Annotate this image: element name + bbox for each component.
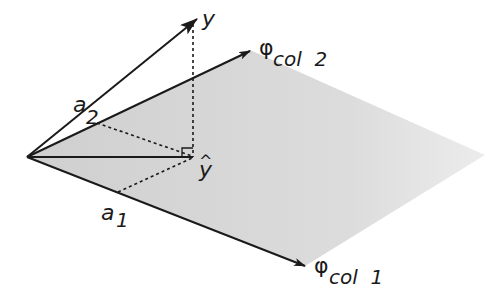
diagram-canvas: y φ col 2 φ col 1 a 2 a 1 ^ y: [0, 0, 497, 307]
projection-diagram: y φ col 2 φ col 1 a 2 a 1 ^ y: [0, 0, 497, 307]
label-phi-col1-sub: col 1: [329, 265, 383, 289]
label-phi-col1-symbol: φ: [314, 253, 329, 278]
label-yhat-base: y: [198, 157, 213, 182]
label-a1-base: a: [101, 200, 114, 225]
label-a2-sub: 2: [86, 105, 99, 129]
label-phi-col2-sub: col 2: [273, 47, 327, 71]
label-y: y: [201, 6, 216, 31]
label-a1-sub: 1: [116, 208, 129, 232]
label-phi-col2-symbol: φ: [259, 35, 274, 60]
label-a2-base: a: [73, 92, 86, 117]
